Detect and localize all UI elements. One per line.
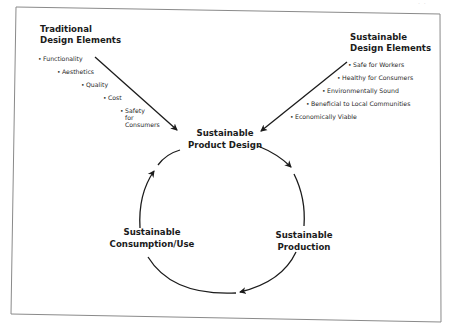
- page-mark: · ·: [418, 0, 427, 6]
- sustainable-item-economically-viable: •Economically Viable: [290, 113, 357, 121]
- node-sustainable-product-design: Sustainable Product Design: [178, 127, 272, 151]
- cycle-arc-left-upper: [158, 150, 180, 165]
- traditional-heading-line2: Design Elements: [40, 35, 121, 46]
- traditional-item-cost: •Cost: [103, 94, 122, 102]
- sustainable-item-healthy-for-consumers: •Healthy for Consumers: [337, 74, 413, 82]
- traditional-item-functionality: •Functionality: [38, 55, 83, 63]
- sustainable-item-safe-for-workers: •Safe for Workers: [348, 61, 404, 69]
- node-sustainable-consumption-use: Sustainable Consumption/Use: [102, 226, 202, 250]
- sustainable-heading: Sustainable Design Elements: [350, 32, 431, 54]
- sustainable-heading-line2: Design Elements: [350, 43, 431, 54]
- traditional-item-quality: •Quality: [81, 81, 108, 89]
- cycle-arc-production-to-consumption: [240, 252, 296, 292]
- diagram-canvas: · · Traditional Design Elements •Functio…: [0, 0, 456, 332]
- traditional-item-safety: •Safety for Consumers: [120, 107, 160, 129]
- cycle-arc-consumption-to-design: [140, 171, 154, 228]
- sustainable-item-beneficial-communities: •Beneficial to Local Communities: [306, 100, 410, 108]
- traditional-item-aesthetics: •Aesthetics: [57, 68, 94, 76]
- node-sustainable-production: Sustainable Production: [272, 229, 336, 253]
- sustainable-item-environmentally-sound: •Environmentally Sound: [322, 87, 399, 95]
- traditional-heading: Traditional Design Elements: [40, 24, 121, 46]
- traditional-heading-line1: Traditional: [40, 24, 121, 35]
- sustainable-heading-line1: Sustainable: [350, 32, 431, 43]
- cycle-arc-bottom-left: [148, 257, 236, 293]
- cycle-arc-right-upper: [294, 174, 304, 226]
